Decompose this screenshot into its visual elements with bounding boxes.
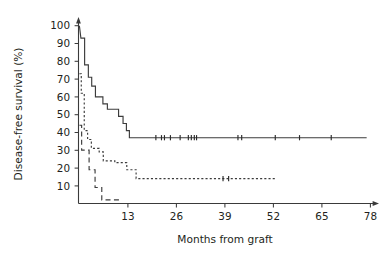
y-axis-ticks	[75, 26, 79, 186]
x-tick-label-78: 78	[364, 210, 377, 222]
x-axis	[79, 201, 380, 206]
y-tick-label-50: 50	[57, 108, 70, 120]
x-axis-title: Months from graft	[177, 233, 272, 245]
y-tick-label-60: 60	[57, 91, 70, 103]
y-tick-label-90: 90	[57, 37, 70, 49]
y-tick-label-10: 10	[57, 180, 70, 192]
chart-canvas: 100 90 80 70 60 50 40 30 20 10 13 26 39 …	[0, 0, 385, 254]
x-axis-ticks	[128, 204, 371, 208]
survival-curve-dotted	[79, 74, 275, 179]
y-axis-arrowhead	[76, 17, 81, 23]
x-tick-label-26: 26	[170, 210, 183, 222]
survival-curve-solid	[79, 26, 366, 138]
survival-curve-dashed	[79, 125, 122, 200]
x-axis-arrowhead	[373, 201, 379, 206]
y-tick-label-100: 100	[50, 19, 70, 31]
x-tick-label-65: 65	[315, 210, 328, 222]
y-axis-tick-labels: 100 90 80 70 60 50 40 30 20 10	[50, 19, 70, 191]
y-tick-label-40: 40	[57, 126, 70, 138]
x-axis-tick-labels: 13 26 39 52 65 78	[121, 210, 377, 222]
kaplan-meier-chart: 100 90 80 70 60 50 40 30 20 10 13 26 39 …	[0, 0, 385, 254]
x-tick-label-13: 13	[121, 210, 134, 222]
survival-curves	[79, 26, 366, 200]
y-axis	[76, 17, 81, 204]
x-tick-label-52: 52	[267, 210, 280, 222]
y-tick-label-80: 80	[57, 55, 70, 67]
y-tick-label-30: 30	[57, 144, 70, 156]
y-tick-label-20: 20	[57, 162, 70, 174]
x-tick-label-39: 39	[218, 210, 231, 222]
y-axis-title: Disease-free survival (%)	[12, 48, 24, 181]
y-tick-label-70: 70	[57, 73, 70, 85]
